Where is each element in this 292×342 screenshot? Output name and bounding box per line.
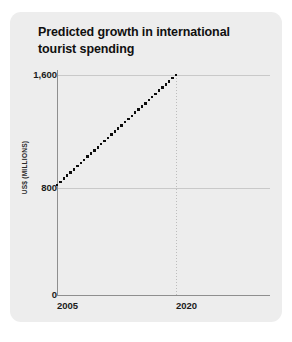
data-point bbox=[80, 162, 83, 165]
data-point bbox=[131, 115, 134, 118]
data-point bbox=[114, 130, 117, 133]
data-point bbox=[124, 121, 127, 124]
data-point bbox=[83, 159, 86, 162]
gridline-x-2020 bbox=[176, 75, 177, 295]
data-point bbox=[107, 137, 110, 140]
data-point bbox=[97, 146, 100, 149]
data-point bbox=[63, 177, 66, 180]
data-point bbox=[76, 165, 79, 168]
gridline-y-800 bbox=[57, 188, 270, 189]
data-point bbox=[165, 83, 168, 86]
data-point bbox=[110, 133, 113, 136]
x-tick-label-2020: 2020 bbox=[176, 300, 197, 311]
x-axis-line bbox=[57, 295, 270, 296]
y-axis-title: US$ (MILLIONS) bbox=[21, 113, 28, 223]
y-tick-label-800: 800 bbox=[41, 182, 57, 193]
y-axis-line bbox=[57, 70, 58, 296]
data-point bbox=[117, 127, 120, 130]
gridline-y-1600 bbox=[57, 75, 270, 76]
data-point bbox=[103, 140, 106, 143]
data-point bbox=[66, 174, 69, 177]
data-point bbox=[148, 99, 151, 102]
y-tick-label-0: 0 bbox=[52, 289, 57, 300]
data-point bbox=[158, 89, 161, 92]
data-point bbox=[86, 155, 89, 158]
data-point bbox=[59, 181, 62, 184]
data-point bbox=[141, 105, 144, 108]
chart-card: Predicted growth in international touris… bbox=[10, 12, 282, 322]
x-tick-label-2005: 2005 bbox=[57, 300, 78, 311]
data-point bbox=[168, 80, 171, 83]
data-point bbox=[100, 143, 103, 146]
data-point bbox=[93, 149, 96, 152]
data-point bbox=[151, 96, 154, 99]
y-tick-label-1600: 1,600 bbox=[33, 69, 57, 80]
data-point bbox=[171, 77, 174, 80]
data-point bbox=[73, 168, 76, 171]
data-series-dotted-line bbox=[10, 12, 282, 322]
data-point bbox=[137, 108, 140, 111]
data-point bbox=[161, 86, 164, 89]
data-point bbox=[144, 102, 147, 105]
data-point bbox=[120, 124, 123, 127]
data-point bbox=[154, 93, 157, 96]
data-point bbox=[69, 171, 72, 174]
data-point bbox=[127, 118, 130, 121]
data-point bbox=[90, 152, 93, 155]
data-point bbox=[134, 111, 137, 114]
plot-area: 1,600 800 0 2005 2020 US$ (MILLIONS) bbox=[10, 12, 282, 322]
